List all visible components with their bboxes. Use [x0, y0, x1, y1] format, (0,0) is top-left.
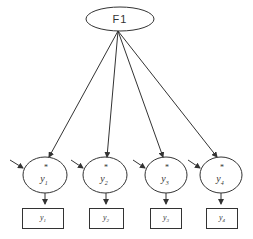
latent-nodes	[23, 157, 242, 193]
observed-label-y1: y1	[40, 213, 46, 224]
latent-star-y4: *	[220, 163, 224, 172]
loading-arrow-y4	[118, 31, 217, 157]
latent-label-y1: y1	[40, 173, 47, 186]
loading-arrow-y1	[49, 31, 118, 157]
observed-nodes	[23, 209, 238, 229]
latent-label-y3: y3	[161, 173, 168, 186]
error-arrow-y4	[188, 160, 200, 168]
latent-label-y4: y4	[216, 173, 223, 186]
sem-diagram	[0, 0, 253, 239]
latent-star-y1: *	[44, 163, 48, 172]
latent-star-y2: *	[104, 163, 108, 172]
observed-label-y3: y3	[163, 213, 169, 224]
loading-arrow-y2	[107, 31, 118, 157]
factor-label: F1	[113, 13, 128, 25]
observed-label-y2: y2	[103, 213, 109, 224]
error-arrow-y3	[133, 160, 145, 168]
measurement-arrows	[45, 193, 221, 204]
latent-star-y3: *	[165, 163, 169, 172]
observed-label-y4: y4	[219, 213, 225, 224]
latent-label-y2: y2	[100, 173, 107, 186]
loading-arrow-y3	[118, 31, 163, 157]
factor-loading-arrows	[49, 31, 217, 157]
error-arrow-y2	[71, 160, 83, 168]
error-arrow-y1	[10, 160, 23, 168]
